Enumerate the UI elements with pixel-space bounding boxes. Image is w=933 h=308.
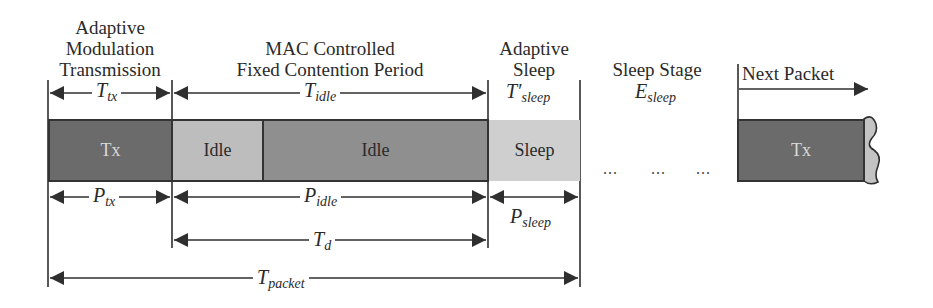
symbol-base: P [93, 184, 105, 206]
symbol-sub: tx [107, 89, 117, 104]
symbol-sub: sleep [522, 90, 551, 105]
next-tx-box: Tx [737, 119, 865, 182]
symbol-base: T [313, 228, 324, 250]
symbol-sub: d [324, 238, 331, 253]
symbol-base: P [304, 184, 316, 206]
label-t-tx: Ttx [92, 79, 121, 108]
label-t-idle: Tidle [300, 79, 340, 108]
ellipsis-3: ... [696, 160, 711, 178]
symbol-base: P [510, 205, 522, 227]
label-t-d: Td [309, 228, 335, 257]
symbol-sub: sleep [647, 90, 676, 105]
symbol-base: T [304, 79, 315, 101]
tx-box: Tx [48, 119, 173, 182]
ellipsis-2: ... [651, 160, 666, 178]
label-p-tx: Ptx [89, 184, 119, 213]
symbol-base: E [635, 80, 647, 102]
symbol-sub: idle [316, 194, 337, 209]
symbol-sub: packet [268, 276, 305, 291]
symbol-sub: tx [105, 194, 115, 209]
label-p-sleep: Psleep [506, 205, 555, 234]
symbol-sub: idle [315, 89, 336, 104]
label-t-sleep-prime: T′sleep [502, 80, 554, 109]
sleep-box: Sleep [489, 120, 580, 181]
idle-box-light: Idle [171, 119, 264, 182]
label-t-packet: Tpacket [253, 266, 309, 295]
symbol-base: T [96, 79, 107, 101]
symbol-sub: sleep [522, 215, 551, 230]
label-e-sleep: Esleep [631, 80, 680, 109]
symbol-base: T [257, 266, 268, 288]
symbol-base: T′ [506, 80, 522, 102]
ellipsis-1: ... [603, 160, 618, 178]
idle-box-dark: Idle [262, 119, 489, 182]
label-p-idle: Pidle [300, 184, 341, 213]
